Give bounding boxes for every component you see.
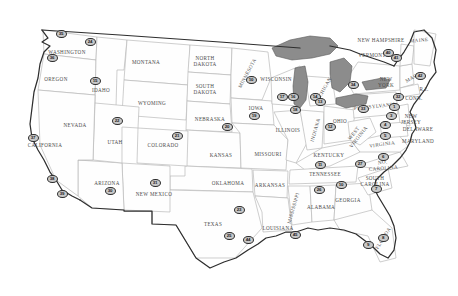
map-marker-41[interactable]: 41 [391, 54, 402, 62]
map-marker-3[interactable]: 3 [386, 112, 397, 120]
map-marker-24[interactable]: 24 [85, 38, 96, 46]
map-marker-32[interactable]: 32 [393, 93, 404, 101]
map-marker-7[interactable]: 7 [371, 185, 382, 193]
map-marker-33[interactable]: 33 [358, 105, 369, 113]
map-graphic [0, 0, 458, 296]
state-boundaries [38, 30, 436, 262]
map-marker-34[interactable]: 34 [348, 81, 359, 89]
map-marker-15[interactable]: 15 [90, 77, 101, 85]
map-marker-45[interactable]: 45 [290, 231, 301, 239]
map-marker-21[interactable]: 21 [172, 132, 183, 140]
map-marker-25[interactable]: 25 [224, 232, 235, 240]
map-marker-31[interactable]: 31 [150, 179, 161, 187]
map-marker-36[interactable]: 36 [47, 54, 58, 62]
map-marker-6[interactable]: 6 [378, 153, 389, 161]
map-marker-11[interactable]: 11 [315, 161, 326, 169]
map-marker-17[interactable]: 17 [277, 93, 288, 101]
map-marker-10[interactable]: 10 [246, 76, 257, 84]
map-marker-9[interactable]: 9 [363, 241, 374, 249]
map-marker-42[interactable]: 42 [415, 72, 426, 80]
map-marker-44[interactable]: 44 [243, 236, 254, 244]
map-marker-5[interactable]: 5 [380, 132, 391, 140]
map-marker-16[interactable]: 16 [288, 93, 299, 101]
us-map-figure: WASHINGTONOREGONIDAHOMONTANAWYOMINGNEVAD… [0, 0, 458, 296]
map-marker-8[interactable]: 8 [378, 234, 389, 242]
map-marker-39[interactable]: 39 [57, 190, 68, 198]
map-marker-35[interactable]: 35 [56, 30, 67, 38]
map-marker-13[interactable]: 13 [315, 98, 326, 106]
map-marker-22[interactable]: 22 [112, 117, 123, 125]
map-marker-18[interactable]: 18 [290, 106, 301, 114]
map-marker-4[interactable]: 4 [380, 121, 391, 129]
map-marker-1[interactable]: 1 [389, 103, 400, 111]
map-marker-26[interactable]: 26 [314, 186, 325, 194]
map-marker-19[interactable]: 19 [249, 112, 260, 120]
map-marker-10b[interactable]: 10 [336, 181, 347, 189]
map-marker-23[interactable]: 23 [234, 206, 245, 214]
map-marker-38[interactable]: 38 [47, 175, 58, 183]
map-marker-12[interactable]: 12 [325, 123, 336, 131]
map-marker-37[interactable]: 37 [28, 134, 39, 142]
map-marker-30[interactable]: 30 [105, 187, 116, 195]
map-marker-20[interactable]: 20 [222, 123, 233, 131]
map-marker-27[interactable]: 27 [355, 160, 366, 168]
